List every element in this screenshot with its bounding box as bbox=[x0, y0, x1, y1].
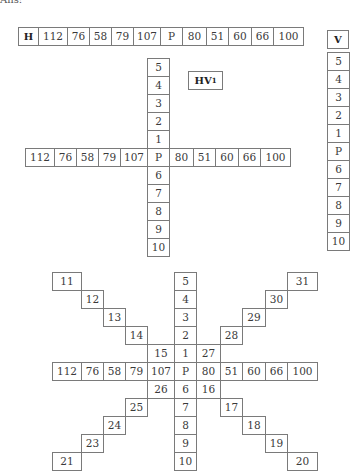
hv1-horizontal-cell: 76 bbox=[54, 148, 77, 167]
star-diagonal-cell: 21 bbox=[52, 452, 82, 471]
star-diagonal-cell: 15 bbox=[147, 344, 175, 363]
star-diagonal-cell: 26 bbox=[147, 380, 175, 399]
star-vertical-cell: 4 bbox=[174, 290, 197, 309]
star-vertical-cell: 9 bbox=[174, 434, 197, 453]
v-column-cell: 6 bbox=[327, 160, 350, 179]
h-row-cell: 80 bbox=[182, 27, 207, 46]
hv1-horizontal-cell: 80 bbox=[169, 148, 194, 167]
star-horizontal-cell: 100 bbox=[287, 362, 318, 381]
hv1-horizontal-cell: 107 bbox=[120, 148, 148, 167]
star-horizontal-cell: 51 bbox=[220, 362, 243, 381]
star-vertical-cell: 1 bbox=[174, 344, 197, 363]
v-column-cell: P bbox=[327, 142, 350, 161]
hv1-vertical-cell: P bbox=[147, 148, 170, 167]
v-column-cell: 2 bbox=[327, 106, 350, 125]
star-diagonal-cell: 28 bbox=[220, 326, 243, 345]
star-horizontal-cell: 107 bbox=[147, 362, 175, 381]
star-diagonal-cell: 24 bbox=[103, 416, 126, 435]
star-vertical-cell: 10 bbox=[174, 452, 197, 471]
star-vertical-cell: P bbox=[174, 362, 197, 381]
v-column-cell: 10 bbox=[327, 232, 350, 251]
hv1-vertical-cell: 6 bbox=[147, 166, 170, 185]
hv1-vertical-cell: 2 bbox=[147, 112, 170, 131]
star-diagonal-cell: 27 bbox=[196, 344, 221, 363]
hv1-horizontal-cell: 58 bbox=[76, 148, 99, 167]
hv1-vertical-cell: 10 bbox=[147, 238, 170, 257]
h-row-cell: 66 bbox=[251, 27, 274, 46]
h-label: H bbox=[18, 27, 39, 46]
h-row-cell: 112 bbox=[38, 27, 68, 46]
hv1-vertical-cell: 3 bbox=[147, 94, 170, 113]
star-horizontal-cell: 60 bbox=[242, 362, 266, 381]
hv1-vertical-cell: 4 bbox=[147, 76, 170, 95]
v-column-cell: 3 bbox=[327, 88, 350, 107]
v-column-cell: 7 bbox=[327, 178, 350, 197]
star-horizontal-cell: 76 bbox=[81, 362, 104, 381]
star-vertical-cell: 2 bbox=[174, 326, 197, 345]
hv1-horizontal-cell: 79 bbox=[98, 148, 121, 167]
star-diagonal-cell: 14 bbox=[125, 326, 148, 345]
star-vertical-cell: 6 bbox=[174, 380, 197, 399]
h-row-cell: 58 bbox=[89, 27, 112, 46]
star-diagonal-cell: 12 bbox=[81, 290, 104, 309]
star-diagonal-cell: 20 bbox=[287, 452, 318, 471]
star-diagonal-cell: 23 bbox=[81, 434, 104, 453]
star-diagonal-cell: 30 bbox=[265, 290, 288, 309]
h-row-cell: P bbox=[160, 27, 183, 46]
star-horizontal-cell: 58 bbox=[103, 362, 126, 381]
hv1-label: HV1 bbox=[188, 71, 223, 90]
hv1-horizontal-cell: 60 bbox=[215, 148, 239, 167]
star-vertical-cell: 3 bbox=[174, 308, 197, 327]
hv1-vertical-cell: 5 bbox=[147, 58, 170, 77]
hv1-label-text: HV bbox=[194, 76, 211, 86]
hv1-horizontal-cell: 100 bbox=[260, 148, 291, 167]
star-vertical-cell: 5 bbox=[174, 272, 197, 291]
h-row-cell: 60 bbox=[228, 27, 252, 46]
star-diagonal-cell: 13 bbox=[103, 308, 126, 327]
hv1-vertical-cell: 1 bbox=[147, 130, 170, 149]
h-row-cell: 100 bbox=[273, 27, 304, 46]
star-horizontal-cell: 79 bbox=[125, 362, 148, 381]
hv1-horizontal-cell: 66 bbox=[238, 148, 261, 167]
answer-header: Ans: bbox=[0, 0, 22, 5]
h-row-cell: 107 bbox=[133, 27, 161, 46]
star-vertical-cell: 8 bbox=[174, 416, 197, 435]
v-label: V bbox=[327, 30, 349, 49]
star-horizontal-cell: 112 bbox=[52, 362, 82, 381]
star-diagonal-cell: 11 bbox=[52, 272, 82, 291]
star-vertical-cell: 7 bbox=[174, 398, 197, 417]
star-diagonal-cell: 19 bbox=[265, 434, 288, 453]
hv1-label-sub: 1 bbox=[212, 77, 217, 84]
h-row-cell: 79 bbox=[111, 27, 134, 46]
v-column-cell: 9 bbox=[327, 214, 350, 233]
hv1-vertical-cell: 7 bbox=[147, 184, 170, 203]
star-diagonal-cell: 18 bbox=[242, 416, 266, 435]
star-diagonal-cell: 31 bbox=[287, 272, 318, 291]
v-column-cell: 8 bbox=[327, 196, 350, 215]
hv1-horizontal-cell: 112 bbox=[25, 148, 55, 167]
h-row-cell: 51 bbox=[206, 27, 229, 46]
star-diagonal-cell: 29 bbox=[242, 308, 266, 327]
star-horizontal-cell: 66 bbox=[265, 362, 288, 381]
hv1-vertical-cell: 8 bbox=[147, 202, 170, 221]
h-row-cell: 76 bbox=[67, 27, 90, 46]
hv1-horizontal-cell: 51 bbox=[193, 148, 216, 167]
star-horizontal-cell: 80 bbox=[196, 362, 221, 381]
star-diagonal-cell: 16 bbox=[196, 380, 221, 399]
v-column-cell: 1 bbox=[327, 124, 350, 143]
star-diagonal-cell: 17 bbox=[220, 398, 243, 417]
v-column-cell: 4 bbox=[327, 70, 350, 89]
hv1-vertical-cell: 9 bbox=[147, 220, 170, 239]
star-diagonal-cell: 25 bbox=[125, 398, 148, 417]
v-column-cell: 5 bbox=[327, 52, 350, 71]
